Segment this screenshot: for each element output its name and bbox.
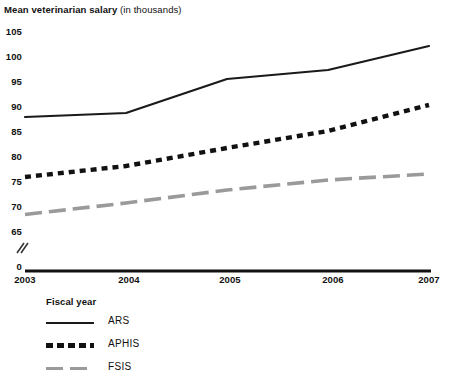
series-line-ars <box>25 46 429 117</box>
legend-label-ars: ARS <box>108 315 129 326</box>
series-line-aphis <box>25 105 429 177</box>
chart-legend: ARS APHIS FSIS <box>24 312 244 374</box>
legend-label-aphis: APHIS <box>108 338 140 349</box>
legend-swatch-solid-line-icon <box>46 322 94 324</box>
legend-label-fsis: FSIS <box>108 361 131 372</box>
series-line-fsis <box>25 174 429 215</box>
legend-swatch-dashed-line-icon <box>46 343 94 348</box>
legend-item-aphis[interactable]: APHIS <box>24 335 244 358</box>
y-axis-break-icon <box>17 243 28 253</box>
legend-item-ars[interactable]: ARS <box>24 312 244 335</box>
legend-item-fsis[interactable]: FSIS <box>24 358 244 374</box>
legend-swatch-gray-dashed-line-icon <box>46 367 94 370</box>
